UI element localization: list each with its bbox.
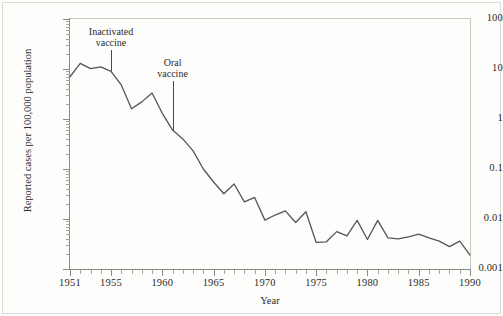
y-tick-minor xyxy=(66,234,70,235)
x-tick-minor xyxy=(101,270,102,274)
x-tick-minor xyxy=(429,270,430,274)
annotation-oral-vaccine-line1: Oral xyxy=(113,57,233,68)
x-tick-minor xyxy=(132,270,133,274)
x-tick-minor xyxy=(357,270,358,274)
y-tick-minor xyxy=(66,84,70,85)
x-tick-minor xyxy=(152,270,153,274)
y-tick-minor xyxy=(66,195,70,196)
x-axis-title: Year xyxy=(70,295,470,306)
y-tick-minor xyxy=(66,71,70,72)
y-tick-label: 100 xyxy=(445,13,503,24)
x-tick-minor xyxy=(296,270,297,274)
y-tick-minor xyxy=(66,254,70,255)
y-tick-minor xyxy=(66,127,70,128)
x-tick-minor xyxy=(224,270,225,274)
page-border xyxy=(2,2,501,314)
annotation-oral-vaccine: Oral vaccine xyxy=(113,57,233,79)
x-tick-minor xyxy=(285,270,286,274)
chart-figure: 1001010.10.010.001 195119551960196519701… xyxy=(0,0,503,316)
x-tick-label: 1960 xyxy=(142,278,182,289)
y-tick-minor xyxy=(66,227,70,228)
x-tick-label: 1970 xyxy=(245,278,285,289)
y-tick-minor xyxy=(66,184,70,185)
x-tick-minor xyxy=(80,270,81,274)
y-tick-minor xyxy=(66,221,70,222)
x-tick-major xyxy=(316,270,317,276)
y-tick-minor xyxy=(66,74,70,75)
y-tick-minor xyxy=(66,174,70,175)
x-tick-label: 1955 xyxy=(91,278,131,289)
y-tick-label: 1 xyxy=(445,113,503,124)
y-tick-minor xyxy=(66,54,70,55)
x-tick-minor xyxy=(244,270,245,274)
x-tick-minor xyxy=(439,270,440,274)
y-tick-minor xyxy=(66,154,70,155)
y-tick-major xyxy=(63,19,70,20)
y-tick-minor xyxy=(66,134,70,135)
y-tick-minor xyxy=(66,204,70,205)
annotation-inactivated-vaccine: Inactivated vaccine xyxy=(51,26,171,48)
y-tick-minor xyxy=(66,21,70,22)
y-tick-label: 10 xyxy=(445,63,503,74)
y-tick-minor xyxy=(66,24,70,25)
y-tick-label: 0.001 xyxy=(445,263,503,274)
x-tick-major xyxy=(214,270,215,276)
x-tick-minor xyxy=(275,270,276,274)
x-tick-major xyxy=(111,270,112,276)
x-tick-label: 1990 xyxy=(450,278,490,289)
y-tick-minor xyxy=(66,130,70,131)
annotation-inactivated-vaccine-line2: vaccine xyxy=(51,37,171,48)
y-tick-minor xyxy=(66,230,70,231)
y-tick-minor xyxy=(66,104,70,105)
x-tick-minor xyxy=(234,270,235,274)
x-tick-minor xyxy=(183,270,184,274)
x-tick-label: 1951 xyxy=(50,278,90,289)
y-tick-major xyxy=(63,119,70,120)
y-tick-minor xyxy=(66,145,70,146)
x-tick-minor xyxy=(121,270,122,274)
x-tick-minor xyxy=(337,270,338,274)
x-tick-minor xyxy=(347,270,348,274)
y-tick-minor xyxy=(66,171,70,172)
y-tick-minor xyxy=(66,124,70,125)
x-tick-minor xyxy=(449,270,450,274)
x-tick-major xyxy=(419,270,420,276)
x-tick-minor xyxy=(398,270,399,274)
x-tick-major xyxy=(367,270,368,276)
annotation-inactivated-vaccine-line1: Inactivated xyxy=(51,26,171,37)
y-tick-minor xyxy=(66,80,70,81)
x-tick-major xyxy=(470,270,471,276)
x-tick-minor xyxy=(203,270,204,274)
plot-top-spine xyxy=(69,18,471,19)
x-tick-minor xyxy=(460,270,461,274)
y-tick-minor xyxy=(66,121,70,122)
y-axis-title: Reported cases per 100,000 population xyxy=(22,26,33,236)
x-tick-minor xyxy=(408,270,409,274)
y-tick-minor xyxy=(66,224,70,225)
y-tick-major xyxy=(63,69,70,70)
y-axis-spine xyxy=(69,18,70,270)
y-tick-label: 0.1 xyxy=(445,163,503,174)
x-tick-label: 1985 xyxy=(399,278,439,289)
x-tick-minor xyxy=(91,270,92,274)
x-tick-minor xyxy=(255,270,256,274)
y-tick-minor xyxy=(66,177,70,178)
x-axis-spine xyxy=(69,269,471,270)
x-tick-minor xyxy=(173,270,174,274)
y-tick-minor xyxy=(66,89,70,90)
y-tick-label: 0.01 xyxy=(445,213,503,224)
x-tick-major xyxy=(162,270,163,276)
x-tick-major xyxy=(265,270,266,276)
annotation-oral-vaccine-line2: vaccine xyxy=(113,68,233,79)
x-tick-minor xyxy=(388,270,389,274)
y-tick-minor xyxy=(66,77,70,78)
plot-right-spine xyxy=(470,18,471,270)
x-tick-minor xyxy=(378,270,379,274)
y-tick-major xyxy=(63,219,70,220)
x-tick-label: 1975 xyxy=(296,278,336,289)
x-tick-minor xyxy=(142,270,143,274)
y-tick-minor xyxy=(66,139,70,140)
y-tick-minor xyxy=(66,180,70,181)
x-tick-minor xyxy=(306,270,307,274)
x-tick-label: 1965 xyxy=(194,278,234,289)
